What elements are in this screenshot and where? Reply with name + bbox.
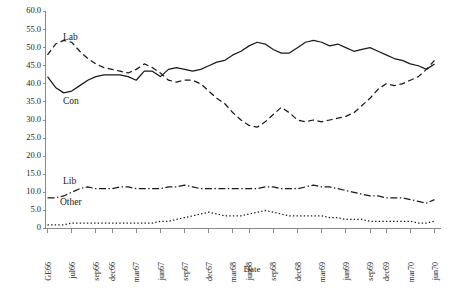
x-axis-tick-label: dec69 [382, 262, 391, 281]
series-label-other: Other [60, 197, 82, 207]
series-label-lab: Lab [63, 32, 78, 42]
x-axis-title: Date [244, 264, 261, 274]
x-axis-tick-label: GE66 [44, 262, 53, 281]
series-line-lab [48, 40, 435, 127]
series-label-con: Con [63, 96, 79, 106]
y-axis-tick-label: 15.0 [26, 168, 41, 178]
x-axis-tick-label: sep66 [92, 262, 101, 281]
x-axis-tick-label: jun67 [157, 262, 166, 281]
series-line-lib [48, 185, 435, 203]
x-axis-tick-label: mar69 [318, 262, 327, 282]
y-axis-tick-label: 0 [37, 222, 41, 232]
x-axis-tick-marks [48, 229, 435, 233]
y-axis-tick-labels: 05.010.015.020.025.030.035.040.045.050.0… [26, 5, 41, 232]
x-axis-tick-label: dec66 [108, 262, 117, 281]
x-axis-tick-label: jul66 [68, 262, 77, 279]
y-axis-tick-label: 20.0 [26, 150, 41, 160]
x-axis-tick-label: jun70 [431, 262, 440, 281]
series-line-con [48, 40, 435, 92]
x-axis-tick-label: sep69 [366, 262, 375, 281]
x-axis-tick-labels: GE66jul66sep66dec66mar67jun67sep67dec67m… [44, 262, 440, 282]
x-axis-tick-label: jun69 [342, 262, 351, 281]
x-axis-tick-label: mar67 [132, 262, 141, 282]
y-axis-tick-label: 5.0 [30, 204, 41, 214]
y-axis-tick-label: 25.0 [26, 132, 41, 142]
y-axis-tick-label: 55.0 [26, 24, 41, 34]
x-axis-tick-label: mar70 [407, 262, 416, 282]
y-axis-tick-label: 30.0 [26, 114, 41, 124]
series-lines [48, 40, 435, 224]
series-label-lib: Lib [63, 176, 76, 186]
y-axis-tick-label: 60.0 [26, 5, 41, 15]
x-axis-tick-label: mar68 [229, 262, 238, 282]
y-axis-tick-label: 10.0 [26, 186, 41, 196]
x-axis-tick-label: sep68 [269, 262, 278, 281]
y-axis-tick-label: 45.0 [26, 60, 41, 70]
y-axis-tick-label: 40.0 [26, 78, 41, 88]
x-axis-tick-label: dec67 [205, 262, 214, 281]
x-axis-tick-label: dec68 [294, 262, 303, 281]
y-axis-tick-label: 35.0 [26, 96, 41, 106]
series-line-other [48, 210, 435, 224]
x-axis-tick-label: sep67 [181, 262, 190, 281]
series-inline-labels: LabConLibOther [60, 32, 82, 207]
y-axis-tick-label: 50.0 [26, 42, 41, 52]
line-chart: 05.010.015.020.025.030.035.040.045.050.0… [0, 0, 467, 290]
chart-figure: 05.010.015.020.025.030.035.040.045.050.0… [0, 0, 467, 290]
